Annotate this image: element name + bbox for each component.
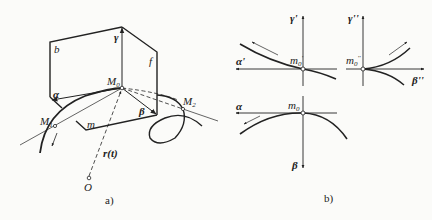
label-beta-double-prime: β'' xyxy=(411,74,424,86)
figure-b: γ' α' m0' γ'' β'' m0'' α β m0 b) xyxy=(236,12,424,205)
curve-bottom xyxy=(240,113,347,139)
label-gamma-double-prime: γ'' xyxy=(348,12,359,24)
label-M0: M0 xyxy=(106,75,120,89)
caption-b: b) xyxy=(324,192,334,205)
label-r-t: r(t) xyxy=(103,147,118,160)
projection-top-left: γ' α' m0' xyxy=(236,12,337,86)
point-m0-prime xyxy=(301,67,305,71)
label-beta: β xyxy=(291,159,298,171)
figure-a: b f m γ α β M0 M1 M2 r(t) O a) xyxy=(20,27,218,207)
label-alpha: α xyxy=(236,100,243,112)
label-m0-double-prime: m0'' xyxy=(346,54,361,68)
point-M2 xyxy=(181,107,184,110)
label-alpha-prime: α' xyxy=(236,55,245,67)
curve-top-left xyxy=(240,44,336,79)
label-m0: m0 xyxy=(288,99,300,113)
projection-top-right: γ'' β'' m0'' xyxy=(346,12,424,86)
label-O: O xyxy=(84,181,92,193)
label-f: f xyxy=(149,55,154,67)
label-m: m xyxy=(87,118,95,130)
secant-line xyxy=(183,109,218,121)
point-M1 xyxy=(53,124,56,127)
figure-canvas: b f m γ α β M0 M1 M2 r(t) O a) γ' α' m0' xyxy=(0,0,432,220)
label-m0-prime: m0' xyxy=(290,54,303,68)
projection-bottom: α β m0 xyxy=(236,96,347,171)
label-gamma-prime: γ' xyxy=(290,12,298,24)
curve-direction-arrow xyxy=(52,133,57,146)
label-gamma: γ xyxy=(114,31,119,43)
diagram-svg: b f m γ α β M0 M1 M2 r(t) O a) γ' α' m0' xyxy=(0,0,432,220)
caption-a: a) xyxy=(105,194,114,207)
label-M2: M2 xyxy=(182,95,196,109)
point-m0-double-prime xyxy=(361,67,365,71)
point-m0 xyxy=(301,111,305,115)
label-beta: β xyxy=(138,105,145,117)
point-M0 xyxy=(120,86,124,90)
curve-top-right-lower xyxy=(363,69,404,85)
label-b: b xyxy=(54,43,60,55)
point-O xyxy=(87,176,91,180)
curve-top-right-upper xyxy=(363,48,410,69)
label-M1: M1 xyxy=(39,115,53,129)
label-alpha: α xyxy=(53,88,60,100)
